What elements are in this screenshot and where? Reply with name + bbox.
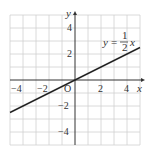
svg-text:=: = <box>111 36 117 48</box>
tick-x-2: 2 <box>98 83 103 94</box>
tick-y-neg2: −2 <box>58 100 69 111</box>
origin-label: O <box>64 83 71 94</box>
svg-text:1: 1 <box>122 29 128 41</box>
tick-y-2: 2 <box>67 48 72 59</box>
x-axis-label: x <box>136 82 142 94</box>
tick-y-4: 4 <box>67 22 72 33</box>
svg-text:2: 2 <box>122 41 128 53</box>
tick-x-neg4: −4 <box>11 83 22 94</box>
svg-text:x: x <box>129 36 135 48</box>
svg-text:y: y <box>102 36 108 48</box>
tick-x-neg2: −2 <box>37 83 48 94</box>
tick-y-neg4: −4 <box>58 126 69 137</box>
y-axis-label: y <box>65 7 71 19</box>
y-axis-arrow-icon <box>73 11 77 15</box>
tick-x-4: 4 <box>124 83 129 94</box>
chart-canvas: y x O −4 −2 2 4 4 2 −2 −4 y = 1 2 x <box>0 0 147 157</box>
